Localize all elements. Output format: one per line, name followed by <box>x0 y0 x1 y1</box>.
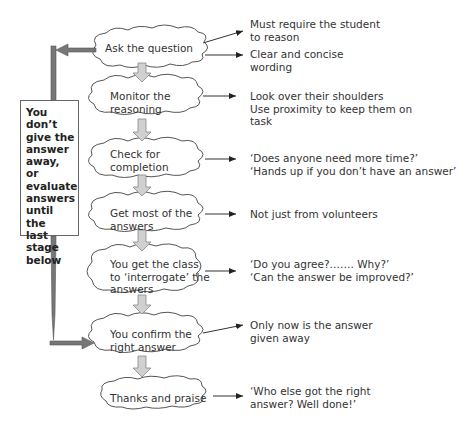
note-check: ‘Does anyone need more time?’ ‘Hands up … <box>250 152 456 177</box>
side-note-box: You don’t give the answer away, or evalu… <box>20 100 79 236</box>
stage-monitor-label: Monitor the reasoning <box>110 90 170 115</box>
note-get: Not just from volunteers <box>250 208 378 221</box>
note-ask-wording: Clear and concise wording <box>250 48 343 73</box>
stage-interrogate-label: You get the class to ‘interrogate’ the a… <box>110 258 210 296</box>
down-arrow-icon <box>133 119 151 141</box>
note-thanks: ‘Who else got the right answer? Well don… <box>250 385 371 410</box>
stage-check-label: Check for completion <box>110 148 169 173</box>
stage-get-label: Get most of the answers <box>110 207 192 232</box>
right-arrow-icon <box>50 337 94 349</box>
note-monitor: Look over their shoulders Use proximity … <box>250 90 412 128</box>
stage-ask-label: Ask the question <box>105 42 193 55</box>
note-connectors <box>203 31 243 396</box>
note-ask-reason: Must require the student to reason <box>250 18 380 43</box>
stage-confirm-label: You confirm the right answer <box>110 328 192 353</box>
down-arrow-icon <box>133 356 151 377</box>
note-interrogate: ‘Do you agree?……. Why?’ ‘Can the answer … <box>250 258 414 283</box>
left-arrow-icon <box>56 44 96 56</box>
down-arrow-icon <box>133 295 151 314</box>
note-confirm: Only now is the answer given away <box>250 319 373 344</box>
stage-thanks-label: Thanks and praise <box>110 392 206 405</box>
